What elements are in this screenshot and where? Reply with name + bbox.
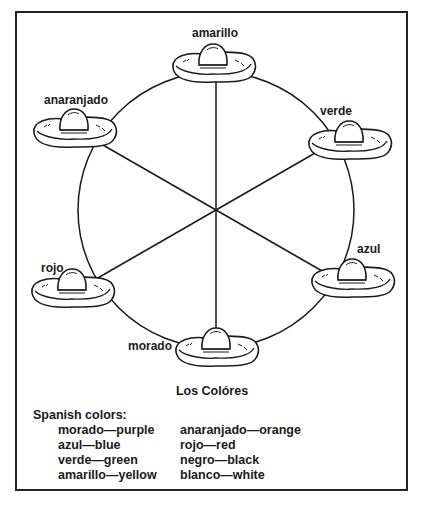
legend-item: rojo—red [180,438,301,453]
label-amarillo: amarillo [192,26,238,40]
legend-column-right: anaranjado—orange rojo—red negro—black b… [180,423,301,483]
sombrero-icon-anaranjado [34,109,117,147]
label-azul: azul [357,242,380,256]
label-rojo: rojo [41,261,64,275]
legend-item: amarillo—yellow [58,468,157,483]
legend-column-left: morado—purple azul—blue verde—green amar… [58,423,157,483]
legend-item: anaranjado—orange [180,423,301,438]
diagram-title: Los Colóres [0,384,424,399]
label-verde: verde [320,104,352,118]
label-anaranjado: anaranjado [44,93,108,107]
legend-item: negro—black [180,453,301,468]
legend-item: blanco—white [180,468,301,483]
sombrero-icon-amarillo [173,44,256,82]
label-morado: morado [128,339,172,353]
legend-heading: Spanish colors: [33,408,127,423]
legend-item: morado—purple [58,423,157,438]
sombrero-icon-azul [312,259,395,297]
sombrero-icon-morado [176,328,259,366]
legend-item: verde—green [58,453,157,468]
sombrero-icon-verde [309,121,392,159]
legend-item: azul—blue [58,438,157,453]
